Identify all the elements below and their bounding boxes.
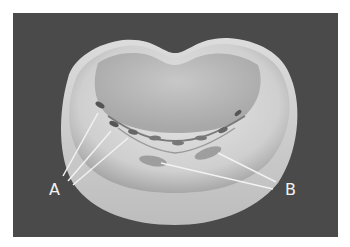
dental-cast-illustration xyxy=(13,13,338,237)
label-b: B xyxy=(285,180,296,199)
dental-cast-photo: A B xyxy=(13,13,338,237)
label-a: A xyxy=(49,180,60,199)
